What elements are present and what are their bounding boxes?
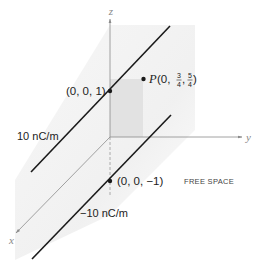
point-P-name: P <box>148 72 157 86</box>
point-P-z-denominator: 4 <box>188 81 192 88</box>
x-axis-label: x <box>8 234 14 246</box>
point-0-0-1-dot <box>108 89 112 93</box>
point-0-0-neg1-label: (0, 0, −1) <box>117 175 164 187</box>
free-space-label: FREE SPACE <box>184 177 234 186</box>
point-P-y-denominator: 4 <box>177 81 181 88</box>
point-P-suffix: ) <box>193 73 197 85</box>
positive-charge-label: 10 nC/m <box>17 130 59 142</box>
point-0-0-1-label: (0, 0, 1) <box>66 85 106 97</box>
diagram-canvas: z y x (0, 0, 1) 10 nC/m (0, 0, −1) −10 n… <box>0 0 260 274</box>
point-P-z-numerator: 5 <box>188 72 192 79</box>
point-P-separator: , <box>182 73 185 85</box>
projection-rectangle <box>110 79 143 137</box>
negative-charge-label: −10 nC/m <box>80 207 128 219</box>
point-P-dot <box>141 77 145 81</box>
y-axis-label: y <box>245 131 251 143</box>
z-axis-label: z <box>108 5 114 17</box>
point-P-y-numerator: 3 <box>177 72 181 79</box>
point-P-prefix: (0, <box>157 73 170 85</box>
point-0-0-neg1-dot <box>108 179 112 183</box>
